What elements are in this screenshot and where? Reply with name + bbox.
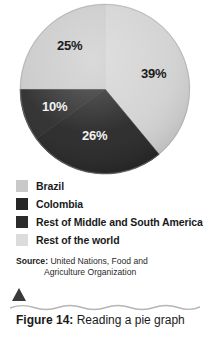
legend-label-brazil: Brazil (36, 180, 64, 192)
pie-label-brazil: 25% (57, 38, 82, 53)
legend-item-colombia: Colombia (0, 195, 209, 213)
legend-swatch-colombia-icon (16, 198, 28, 210)
legend-swatch-rest-of-middle-and-south-america-icon (16, 216, 28, 228)
source-note: Source: United Nations, Food and Agricul… (16, 256, 201, 278)
legend-item-rest-of-the-world: Rest of the world (0, 231, 209, 249)
triangle-up-icon (12, 288, 26, 301)
legend-label-colombia: Colombia (36, 198, 83, 210)
pie-label-rest-of-middle-and-south-america: 26% (82, 128, 107, 143)
wavy-divider-icon (10, 302, 200, 312)
figure-container: 39% 26% 10% 25% Brazil Colombia Rest of … (0, 0, 209, 351)
legend-item-brazil: Brazil (0, 177, 209, 195)
source-label: Source: (16, 256, 48, 266)
pie-label-rest-of-the-world: 39% (141, 66, 166, 81)
pie-label-colombia: 10% (42, 99, 67, 114)
legend-item-rest-of-middle-and-south-america: Rest of Middle and South America (0, 213, 209, 231)
source-text-line1: United Nations, Food and (50, 256, 147, 266)
legend-label-rest-of-the-world: Rest of the world (36, 234, 119, 246)
figure-caption-number: Figure 14: (16, 313, 73, 327)
legend-label-rest-of-middle-and-south-america: Rest of Middle and South America (36, 216, 203, 228)
pie-chart-svg (18, 2, 192, 176)
figure-caption-title: Reading a pie graph (77, 313, 185, 327)
figure-caption: Figure 14: Reading a pie graph (16, 312, 209, 328)
source-text-line2: Agriculture Organization (16, 267, 201, 278)
chart-legend: Brazil Colombia Rest of Middle and South… (0, 177, 209, 249)
pie-chart: 39% 26% 10% 25% (0, 0, 209, 176)
legend-swatch-rest-of-the-world-icon (16, 234, 28, 246)
legend-swatch-brazil-icon (16, 180, 28, 192)
